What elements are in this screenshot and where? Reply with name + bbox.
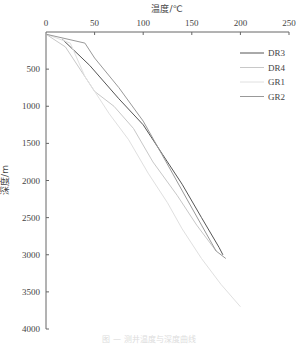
y-tick-label: 1500 [22, 138, 41, 148]
y-axis-ticks: 5001000150020002500300035004000 [22, 64, 49, 334]
legend: DR3DR4GR1GR2 [240, 48, 286, 102]
legend-label: GR2 [268, 92, 285, 102]
x-tick-label: 100 [136, 18, 150, 28]
figure-caption: 图 — 测井温度与深度曲线 [0, 333, 298, 344]
series-line-dr4 [46, 34, 216, 251]
y-tick-label: 3000 [22, 250, 41, 260]
y-tick-label: 2500 [22, 213, 41, 223]
y-tick-label: 1000 [22, 101, 41, 111]
depth-temperature-chart: 温度/℃ 050100150200250 5001000150020002500… [0, 0, 298, 344]
y-tick-label: 2000 [22, 176, 41, 186]
legend-label: GR1 [268, 77, 285, 87]
legend-label: DR4 [268, 63, 286, 73]
x-tick-label: 0 [44, 18, 49, 28]
y-tick-label: 500 [27, 64, 41, 74]
series-line-gr1 [46, 34, 240, 307]
y-tick-label: 3500 [22, 287, 41, 297]
legend-label: DR3 [268, 48, 286, 58]
x-tick-label: 50 [90, 18, 100, 28]
x-tick-label: 200 [234, 18, 248, 28]
series-line-gr2 [46, 34, 226, 258]
series-line-dr3 [63, 39, 223, 254]
x-tick-label: 150 [185, 18, 199, 28]
series-lines [46, 34, 240, 307]
x-axis-title: 温度/℃ [151, 3, 182, 14]
x-tick-label: 250 [282, 18, 296, 28]
y-axis-title: 深度/m [0, 165, 10, 195]
